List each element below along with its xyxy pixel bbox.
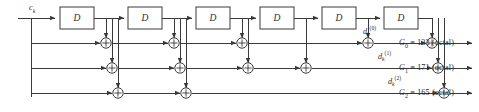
input-label: ck — [29, 3, 35, 14]
generator-value-1: 171 — [417, 63, 430, 72]
generator-value-0: 133 — [417, 38, 430, 47]
dff-label-1: D — [73, 13, 81, 23]
output-superscript-0: (0) — [370, 25, 377, 31]
input-wire-group — [18, 18, 55, 97]
input-subscript: k — [33, 8, 35, 14]
dff-label-3: D — [209, 13, 217, 23]
generator-radix-2: (octal) — [432, 88, 454, 97]
generator-index-1: 1 — [405, 68, 408, 74]
output-subscript-2: k — [392, 81, 394, 87]
output-subscript-0: k — [367, 31, 369, 37]
adder-row0-4 — [363, 38, 373, 48]
output-label-1: dk(1) — [378, 50, 391, 62]
adder-row2-2 — [181, 88, 191, 98]
dff-label-6: D — [397, 13, 405, 23]
generator-radix-0: (octal) — [432, 38, 454, 47]
output-superscript-2: (2) — [395, 75, 402, 81]
output-label-2: dk(2) — [388, 75, 401, 87]
generator-index-2: 2 — [405, 93, 408, 99]
adder-row0-2 — [169, 38, 179, 48]
generator-label-2: G2 = 165 (octal) — [399, 88, 454, 99]
adder-row1-2 — [175, 63, 185, 73]
generator-label-0: G0 = 133 (octal) — [399, 38, 454, 49]
dff-label-2: D — [141, 13, 149, 23]
output-label-0: dk(0) — [363, 25, 376, 37]
generator-value-2: 165 — [417, 88, 430, 97]
encoder-diagram: D D D D D D — [0, 0, 479, 112]
adder-row1-4 — [301, 63, 311, 73]
adder-row1-1 — [107, 63, 117, 73]
adder-row0-1 — [101, 38, 111, 48]
output-superscript-1: (1) — [385, 50, 392, 56]
adder-row2-1 — [113, 88, 123, 98]
output-subscript-1: k — [382, 56, 384, 62]
dff-label-5: D — [335, 13, 343, 23]
generator-index-0: 0 — [405, 43, 408, 49]
dff-label-4: D — [273, 13, 281, 23]
adder-row1-3 — [243, 63, 253, 73]
generator-label-1: G1 = 171 (octal) — [399, 63, 454, 74]
adder-row0-3 — [237, 38, 247, 48]
generator-radix-1: (octal) — [432, 63, 454, 72]
